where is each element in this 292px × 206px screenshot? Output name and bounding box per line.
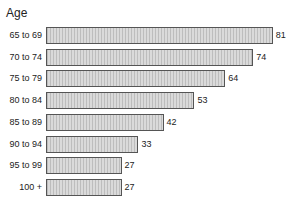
bar [46,70,225,87]
value-label: 27 [125,160,135,170]
value-label: 42 [167,117,177,127]
axis-title: Age [6,6,27,20]
value-label: 74 [256,52,266,62]
bar [46,157,122,174]
category-label: 65 to 69 [0,30,42,40]
value-label: 33 [141,139,151,149]
value-label: 27 [125,182,135,192]
category-label: 85 to 89 [0,117,42,127]
category-label: 80 to 84 [0,95,42,105]
bar-row: 100 +27 [0,179,292,197]
bar-row: 85 to 8942 [0,114,292,132]
bar [46,136,138,153]
bar-row: 75 to 7964 [0,70,292,88]
category-label: 70 to 74 [0,52,42,62]
value-label: 53 [197,95,207,105]
bar [46,114,164,131]
value-label: 81 [276,30,286,40]
bar [46,92,194,109]
value-label: 64 [228,73,238,83]
category-label: 95 to 99 [0,160,42,170]
bar [46,49,253,66]
category-label: 100 + [0,182,42,192]
bar-row: 70 to 7474 [0,49,292,67]
bar [46,179,122,196]
bar [46,27,273,44]
category-label: 90 to 94 [0,139,42,149]
bar-row: 95 to 9927 [0,157,292,175]
bar-row: 90 to 9433 [0,136,292,154]
category-label: 75 to 79 [0,73,42,83]
bar-row: 65 to 6981 [0,27,292,45]
bar-row: 80 to 8453 [0,92,292,110]
